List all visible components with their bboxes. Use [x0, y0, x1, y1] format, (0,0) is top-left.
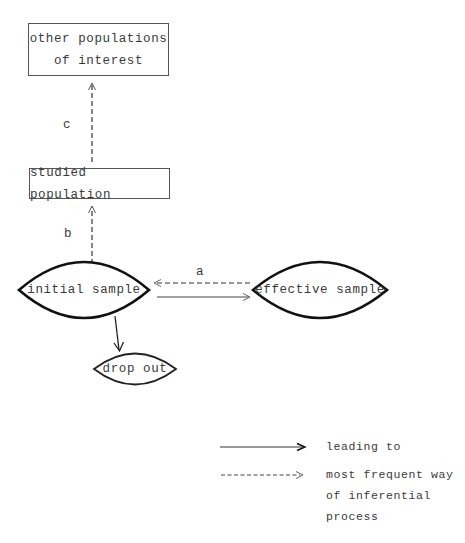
- drop-out-label: drop out: [94, 359, 176, 379]
- legend-dashed-label-line3: process: [326, 506, 379, 527]
- other-populations-box: other populations of interest: [28, 23, 169, 76]
- inference-diagram: other populations of interest studied po…: [0, 0, 465, 543]
- edge-label-c: c: [63, 118, 71, 132]
- studied-population-label: studied population: [30, 162, 169, 206]
- edge-label-b: b: [64, 227, 72, 241]
- legend-dashed-label-line2: of inferential: [326, 485, 431, 506]
- legend-dashed-label-line1: most frequent way: [326, 464, 454, 485]
- edge-a-dashed-arrow: [154, 280, 250, 287]
- edge-initial-to-effective-solid-arrow: [157, 294, 250, 301]
- effective-sample-label: effective sample: [253, 280, 387, 300]
- legend-dashed-arrow-icon: [221, 472, 303, 479]
- diagram-connectors: [0, 0, 465, 543]
- other-populations-label-line2: of interest: [54, 50, 143, 72]
- edge-initial-to-dropout-solid-arrow: [114, 316, 124, 351]
- edge-b-dashed-arrow: [89, 206, 96, 264]
- other-populations-label-line1: other populations: [30, 28, 168, 50]
- edge-c-dashed-arrow: [89, 83, 96, 162]
- studied-population-box: studied population: [29, 168, 170, 199]
- edge-label-a: a: [196, 265, 204, 279]
- legend-solid-arrow-icon: [220, 444, 305, 451]
- legend-solid-label: leading to: [326, 436, 401, 457]
- initial-sample-label: initial sample: [19, 280, 149, 300]
